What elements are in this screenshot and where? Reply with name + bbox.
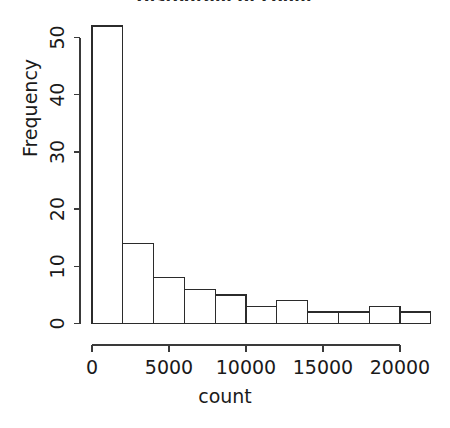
y-tick-label: 30 xyxy=(46,140,68,164)
histogram-bar xyxy=(215,295,246,324)
x-tick-label: 10000 xyxy=(216,356,276,378)
y-tick-label: 20 xyxy=(46,197,68,221)
x-axis xyxy=(92,345,400,352)
y-tick-label: 50 xyxy=(46,25,68,49)
x-tick-labels: 05000100001500020000 xyxy=(86,356,430,378)
histogram-plot: Histogram of count Frequency count 01020… xyxy=(0,0,450,428)
histogram-bar xyxy=(184,289,215,323)
x-tick-label: 5000 xyxy=(145,356,193,378)
y-tick-label: 0 xyxy=(46,317,68,329)
histogram-bar xyxy=(154,278,185,324)
histogram-bar xyxy=(92,26,123,323)
x-tick-label: 20000 xyxy=(370,356,430,378)
y-tick-labels: 01020304050 xyxy=(46,25,68,329)
histogram-bar xyxy=(123,243,154,323)
y-tick-label: 10 xyxy=(46,254,68,278)
x-tick-label: 15000 xyxy=(293,356,353,378)
y-axis xyxy=(74,38,80,324)
y-tick-label: 40 xyxy=(46,83,68,107)
plot-canvas: 01020304050 05000100001500020000 xyxy=(0,0,450,428)
histogram-bar xyxy=(308,312,339,323)
bars-group xyxy=(92,26,431,323)
histogram-bar xyxy=(338,312,369,323)
histogram-bar xyxy=(277,301,308,324)
histogram-bar xyxy=(400,312,431,323)
histogram-bar xyxy=(246,306,277,323)
histogram-bar xyxy=(369,306,400,323)
x-tick-label: 0 xyxy=(86,356,98,378)
